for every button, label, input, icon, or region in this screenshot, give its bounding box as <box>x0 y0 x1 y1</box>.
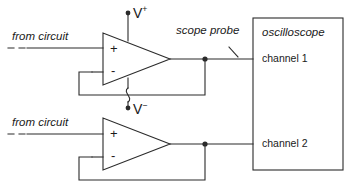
feedback-loop-bottom <box>79 145 205 180</box>
label-scope-probe: scope probe <box>176 25 239 37</box>
opamp-bottom-minus-sign: - <box>111 149 115 162</box>
label-from-circuit-bottom: from circuit <box>12 117 68 129</box>
label-oscilloscope: oscilloscope <box>262 27 325 39</box>
v-plus-terminal-dot <box>126 11 131 16</box>
label-v-minus-superscript: − <box>142 100 147 110</box>
opamp-top-plus-sign: + <box>110 42 118 55</box>
scope-probe-leader-line <box>229 47 238 57</box>
label-channel-2: channel 2 <box>262 138 308 149</box>
feedback-loop-top <box>79 60 205 95</box>
label-v-minus: V− <box>133 101 147 116</box>
v-minus-terminal-dot <box>126 106 131 111</box>
circuit-diagram-canvas: from circuit from circuit V+ V− scope pr… <box>0 0 352 186</box>
opamp-bottom-plus-sign: + <box>110 127 118 140</box>
label-v-minus-base: V <box>133 101 142 117</box>
label-channel-1: channel 1 <box>262 53 308 64</box>
junction-dot-ch2 <box>202 141 207 146</box>
label-v-plus-superscript: + <box>142 4 147 14</box>
opamp-top-minus-sign: - <box>111 64 115 77</box>
junction-dot-ch1 <box>202 56 207 61</box>
label-v-plus: V+ <box>133 5 147 20</box>
label-v-plus-base: V <box>133 5 142 21</box>
label-from-circuit-top: from circuit <box>12 31 68 43</box>
